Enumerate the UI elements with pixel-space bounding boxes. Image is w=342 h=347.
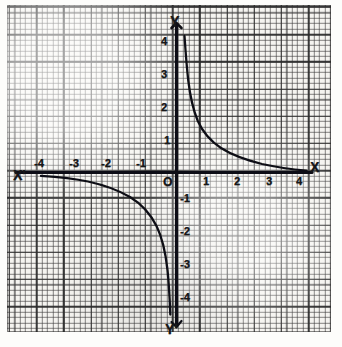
x-axis-positive-label: X: [310, 160, 319, 174]
y-tick-label-3: 3: [161, 69, 167, 80]
graph-paper-grid: [7, 5, 331, 332]
x-tick-label-neg4: -4: [34, 158, 44, 169]
y-tick-label-1: 1: [164, 135, 170, 146]
y-axis-negative-label: Y': [165, 322, 178, 336]
x-tick-label-neg3: -3: [69, 158, 79, 169]
x-tick-label-3: 3: [266, 176, 272, 187]
x-tick-label-4: 4: [296, 176, 302, 187]
x-tick-label-neg1: -1: [136, 158, 146, 169]
graph-figure: X X' Y Y' O -4 -3 -2 -1 1 2 3 4 1 2 3 4 …: [0, 0, 342, 347]
y-tick-label-neg1: -1: [180, 193, 190, 204]
y-tick-label-neg2: -2: [180, 226, 190, 237]
origin-label: O: [163, 176, 172, 188]
y-tick-label-4: 4: [161, 36, 167, 47]
x-tick-label-2: 2: [234, 176, 240, 187]
x-tick-label-1: 1: [203, 176, 209, 187]
x-axis-negative-label: X': [13, 168, 26, 182]
y-tick-label-2: 2: [161, 102, 167, 113]
x-tick-label-neg2: -2: [101, 158, 111, 169]
y-tick-label-neg3: -3: [180, 259, 190, 270]
y-axis-positive-label: Y: [170, 14, 179, 28]
y-tick-label-neg4: -4: [180, 292, 190, 303]
